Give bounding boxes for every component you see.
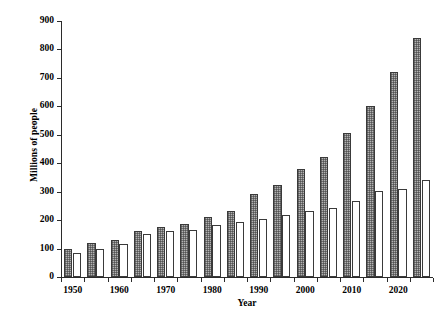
y-tick-mark [57, 21, 61, 22]
x-tick-label: 1990 [249, 285, 268, 295]
x-tick-mark [61, 278, 62, 282]
bar-shaded-1970 [157, 227, 165, 277]
bar-open-1965 [143, 234, 151, 277]
bar-shaded-1990 [250, 194, 258, 277]
x-tick-mark [201, 278, 202, 282]
bar-open-2025 [422, 180, 430, 277]
bar-open-1990 [259, 219, 267, 277]
y-tick-mark [57, 163, 61, 164]
y-tick-label: 300 [40, 186, 54, 196]
bar-open-1950 [73, 253, 81, 277]
x-tick-label: 1980 [203, 285, 222, 295]
bar-shaded-2015 [366, 106, 374, 277]
y-tick-mark [57, 220, 61, 221]
y-tick-label: 0 [49, 271, 54, 281]
bar-open-1960 [119, 244, 127, 277]
bar-open-1955 [96, 249, 104, 277]
x-tick-mark [317, 278, 318, 282]
bar-shaded-1960 [111, 240, 119, 277]
bar-shaded-2005 [320, 157, 328, 277]
x-tick-label: 1970 [156, 285, 175, 295]
x-tick-mark [387, 278, 388, 282]
y-tick-label: 200 [40, 214, 54, 224]
x-tick-mark [131, 278, 132, 282]
x-tick-mark [177, 278, 178, 282]
x-tick-label: 2010 [342, 285, 361, 295]
y-tick-mark [57, 78, 61, 79]
bar-chart: Millions of people 010020030040050060070… [0, 0, 439, 329]
y-tick-mark [57, 249, 61, 250]
x-tick-label: 1950 [63, 285, 82, 295]
x-tick-mark [410, 278, 411, 282]
bar-shaded-1980 [204, 217, 212, 277]
bar-shaded-1985 [227, 211, 235, 277]
x-tick-label: 2000 [296, 285, 315, 295]
bar-shaded-1975 [180, 224, 188, 277]
x-tick-mark [270, 278, 271, 282]
y-tick-mark [57, 49, 61, 50]
y-tick-label: 100 [40, 243, 54, 253]
x-tick-mark [154, 278, 155, 282]
bar-open-1985 [236, 222, 244, 277]
y-axis-label: Millions of people [29, 65, 39, 225]
y-tick-label: 700 [40, 72, 54, 82]
bar-shaded-2010 [343, 133, 351, 277]
plot-area: 0100200300400500600700800900 19501960197… [61, 21, 433, 277]
bar-shaded-2025 [413, 38, 421, 277]
y-tick-mark [57, 192, 61, 193]
bar-open-2005 [329, 208, 337, 277]
bar-open-2020 [398, 189, 406, 277]
bar-shaded-1950 [64, 249, 72, 277]
x-tick-mark [224, 278, 225, 282]
y-tick-label: 800 [40, 43, 54, 53]
x-tick-mark [363, 278, 364, 282]
bar-open-1995 [282, 215, 290, 277]
bar-open-1980 [212, 225, 220, 277]
x-tick-mark [340, 278, 341, 282]
x-tick-label: 1960 [110, 285, 129, 295]
bar-shaded-1965 [134, 231, 142, 277]
y-tick-label: 500 [40, 129, 54, 139]
y-tick-mark [57, 106, 61, 107]
x-axis-label: Year [61, 298, 433, 308]
bar-open-2000 [305, 211, 313, 277]
bar-shaded-1995 [273, 185, 281, 277]
y-tick-label: 600 [40, 100, 54, 110]
y-tick-label: 400 [40, 157, 54, 167]
bar-shaded-1955 [87, 243, 95, 277]
bar-open-1970 [166, 231, 174, 277]
bar-shaded-2020 [390, 72, 398, 277]
bar-open-1975 [189, 230, 197, 277]
bar-open-2015 [375, 191, 383, 277]
x-tick-mark [108, 278, 109, 282]
x-tick-mark [84, 278, 85, 282]
x-tick-mark [294, 278, 295, 282]
y-axis-line [61, 21, 62, 278]
x-tick-label: 2020 [389, 285, 408, 295]
y-tick-mark [57, 135, 61, 136]
y-tick-label: 900 [40, 15, 54, 25]
bar-open-2010 [352, 201, 360, 277]
x-tick-mark [433, 278, 434, 282]
bar-shaded-2000 [297, 169, 305, 277]
x-tick-mark [247, 278, 248, 282]
